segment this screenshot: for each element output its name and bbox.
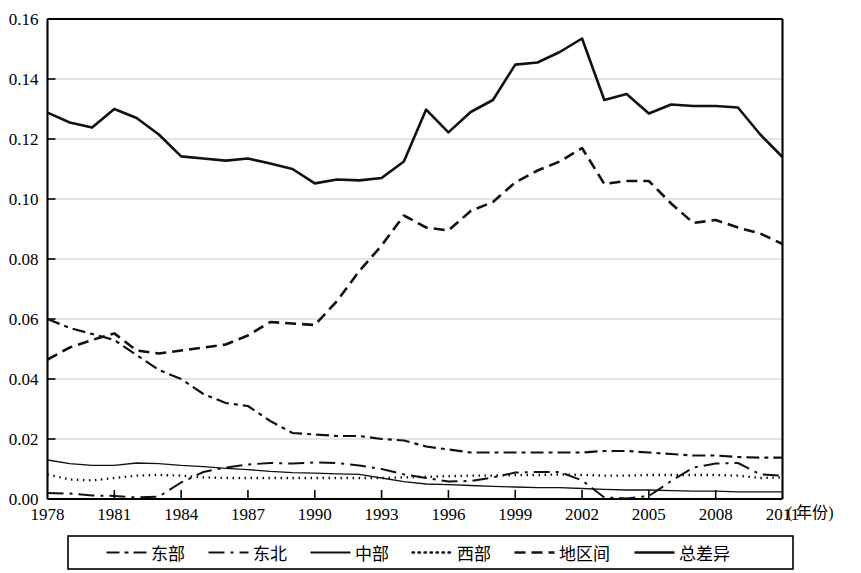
x-axis-tick-label: 1990: [298, 505, 332, 524]
x-axis-tick-label: 1978: [31, 505, 65, 524]
x-axis-tick-label: 1999: [498, 505, 532, 524]
x-axis-labels-group: 1978198119841987199019931996199920022005…: [31, 505, 800, 524]
legend-label-东部: 东部: [151, 545, 185, 564]
x-axis-tick-label: 1993: [365, 505, 399, 524]
x-axis-tick-label: 1981: [97, 505, 131, 524]
legend-label-中部: 中部: [355, 545, 389, 564]
x-axis-tick-label: 1987: [231, 505, 266, 524]
legend-label-地区间: 地区间: [559, 545, 610, 564]
y-axis-tick-label: 0.10: [9, 190, 39, 209]
y-axis-labels-group: 0.000.020.040.060.080.100.120.140.16: [9, 10, 39, 509]
y-axis-tick-label: 0.12: [9, 130, 39, 149]
legend-item-东部[interactable]: 东部: [107, 545, 185, 564]
series-line-东部: [48, 319, 783, 458]
x-axis-tick-label: 2005: [632, 505, 666, 524]
y-axis-tick-label: 0.02: [9, 430, 39, 449]
gridlines-group: [48, 19, 783, 439]
legend-item-地区间[interactable]: 地区间: [515, 545, 610, 564]
y-axis-tick-label: 0.06: [9, 310, 39, 329]
series-group: [48, 39, 783, 499]
legend-label-西部: 西部: [457, 545, 491, 564]
legend-item-西部[interactable]: 西部: [413, 545, 491, 564]
x-axis-tick-label: 1984: [164, 505, 199, 524]
y-axis-tick-label: 0.14: [9, 70, 39, 89]
y-axis-tick-label: 0.04: [9, 370, 39, 389]
y-axis-tick-label: 0.16: [9, 10, 39, 29]
series-line-东北: [48, 462, 783, 498]
y-axis-ticks-group: [48, 19, 56, 499]
line-chart: 0.000.020.040.060.080.100.120.140.16 197…: [0, 0, 861, 573]
x-axis-tick-label: 1996: [431, 505, 465, 524]
legend-item-东北[interactable]: 东北: [209, 545, 287, 564]
y-axis-tick-label: 0.08: [9, 250, 39, 269]
series-line-地区间: [48, 148, 783, 360]
legend-item-中部[interactable]: 中部: [311, 545, 389, 564]
x-axis-tick-label: 2008: [699, 505, 733, 524]
legend-label-总差异: 总差异: [679, 545, 730, 564]
legend-label-东北: 东北: [253, 545, 287, 564]
x-axis-tick-label: 2002: [565, 505, 599, 524]
chart-legend: 东部东北中部西部地区间总差异: [68, 536, 793, 569]
legend-item-总差异[interactable]: 总差异: [635, 545, 730, 564]
chart-canvas: 0.000.020.040.060.080.100.120.140.16 197…: [0, 0, 861, 573]
x-axis-unit-annotation: ( 年份): [787, 504, 834, 522]
series-line-总差异: [48, 39, 783, 184]
